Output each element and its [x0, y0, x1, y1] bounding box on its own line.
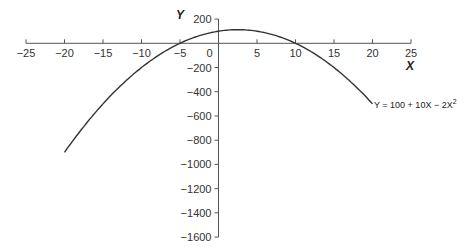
axes: −25−20−15−10−50510152025200−200−400−600−…	[17, 13, 417, 243]
x-tick-label: 0	[206, 47, 212, 59]
y-tick-label: −1000	[181, 158, 212, 170]
y-tick-label: 200	[193, 13, 211, 25]
y-tick-label: −800	[187, 134, 212, 146]
x-tick-label: 5	[254, 47, 260, 59]
equation-main: Y = 100 + 10X − 2X	[374, 100, 453, 110]
x-tick-label: −5	[174, 47, 187, 59]
equation-annotation: Y = 100 + 10X − 2X2	[374, 98, 457, 110]
equation-superscript: 2	[453, 98, 457, 105]
y-axis-label: Y	[176, 8, 185, 22]
x-axis-label: X	[405, 59, 415, 73]
parabola-chart: −25−20−15−10−50510152025200−200−400−600−…	[0, 0, 468, 252]
x-tick-label: −15	[94, 47, 113, 59]
x-tick-label: 20	[366, 47, 378, 59]
y-tick-label: −1600	[181, 231, 212, 243]
y-tick-label: −200	[187, 62, 212, 74]
y-tick-label: −1400	[181, 207, 212, 219]
x-tick-label: −25	[17, 47, 36, 59]
x-tick-label: 25	[405, 47, 417, 59]
y-tick-label: −1200	[181, 183, 212, 195]
x-tick-label: 10	[289, 47, 301, 59]
x-tick-label: −10	[132, 47, 151, 59]
x-tick-label: −20	[55, 47, 74, 59]
y-tick-label: −600	[187, 110, 212, 122]
y-tick-label: −400	[187, 86, 212, 98]
x-tick-label: 15	[328, 47, 340, 59]
